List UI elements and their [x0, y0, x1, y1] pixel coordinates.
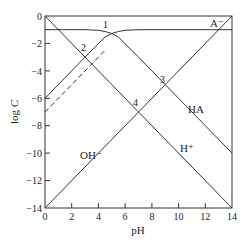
point-3-label: 3	[160, 74, 165, 85]
y-tick-2: −4	[31, 66, 42, 77]
x-tick-3: 6	[123, 211, 128, 222]
point-2-label: 2	[81, 42, 86, 53]
y-tick-3: −6	[31, 93, 42, 104]
a-minus-label: A⁻	[210, 17, 224, 29]
ha-curve	[45, 30, 232, 153]
ha-label: HA	[188, 103, 204, 115]
x-tick-4: 8	[149, 211, 154, 222]
y-tick-4: −8	[31, 120, 42, 131]
point-1-label: 1	[103, 19, 108, 30]
point-4-label: 4	[133, 97, 138, 108]
a-minus-curve	[45, 30, 232, 99]
y-tick-7: −14	[26, 203, 42, 214]
dashed-line	[45, 49, 107, 112]
y-tick-1: −2	[31, 38, 42, 49]
log-c-ph-chart: 0 −2 −4 −6 −8 −10 −12 −14 log C 0 2 4 6 …	[0, 0, 252, 243]
oh-minus-label: OH⁻	[80, 149, 102, 161]
y-axis-label: log C	[8, 99, 20, 124]
x-tick-5: 10	[174, 211, 184, 222]
h-plus-label: H⁺	[180, 142, 194, 154]
x-tick-0: 0	[43, 211, 48, 222]
x-tick-2: 4	[96, 211, 101, 222]
y-tick-0: 0	[37, 11, 42, 22]
x-tick-6: 12	[200, 211, 210, 222]
x-axis-label: pH	[131, 224, 145, 236]
y-axis: 0 −2 −4 −6 −8 −10 −12 −14 log C	[8, 11, 50, 214]
x-tick-7: 14	[227, 211, 237, 222]
y-tick-6: −12	[26, 175, 42, 186]
y-tick-5: −10	[26, 148, 42, 159]
x-tick-1: 2	[69, 211, 74, 222]
